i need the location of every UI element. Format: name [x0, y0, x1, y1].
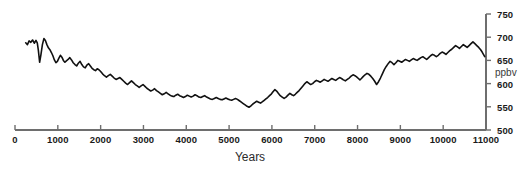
y-tick-label: 600: [497, 78, 513, 89]
x-tick-label: 0: [12, 134, 17, 145]
x-tick-label: 11000: [473, 134, 499, 145]
x-tick-label: 6000: [261, 134, 283, 145]
y-tick-label: 750: [497, 9, 513, 20]
methane-series-line: [26, 39, 485, 108]
x-tick-label: 8000: [347, 134, 369, 145]
x-tick-label: 9000: [390, 134, 412, 145]
x-tick-label: 10000: [430, 134, 457, 145]
y-axis: [486, 14, 491, 130]
x-axis: [15, 125, 486, 130]
y-tick-label: 550: [497, 101, 513, 112]
y-tick-label: 700: [497, 32, 513, 43]
methane-time-series-chart: 0100020003000400050006000700080009000100…: [0, 0, 520, 176]
y-axis-unit-label: ppbv: [495, 67, 517, 78]
x-tick-label: 2000: [90, 134, 112, 145]
x-tick-label: 1000: [47, 134, 69, 145]
y-tick-label: 650: [497, 55, 513, 66]
x-tick-label: 3000: [133, 134, 155, 145]
x-tick-label: 4000: [175, 134, 197, 145]
x-tick-label: 5000: [218, 134, 240, 145]
x-axis-title: Years: [235, 150, 265, 164]
x-tick-label: 7000: [304, 134, 326, 145]
y-tick-label: 500: [497, 125, 513, 136]
